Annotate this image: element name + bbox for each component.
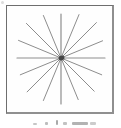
scanned-figure-page: { "window": { "width": 121, "height": 12… bbox=[0, 0, 121, 128]
illegible-caption-mark bbox=[90, 122, 96, 125]
starburst-ray bbox=[27, 58, 61, 92]
illegible-caption-mark bbox=[33, 123, 37, 125]
illegible-caption-mark bbox=[56, 120, 58, 125]
illegible-caption-mark bbox=[63, 122, 67, 125]
starburst-ray bbox=[61, 58, 94, 91]
starburst-ray bbox=[26, 23, 61, 58]
scan-speck bbox=[1, 1, 4, 4]
figure-frame bbox=[6, 5, 114, 114]
starburst-ray bbox=[61, 23, 96, 58]
illegible-caption-mark bbox=[45, 122, 48, 125]
illegible-caption-mark bbox=[72, 122, 88, 125]
starburst-svg bbox=[7, 6, 112, 112]
figure-caption bbox=[0, 118, 121, 128]
